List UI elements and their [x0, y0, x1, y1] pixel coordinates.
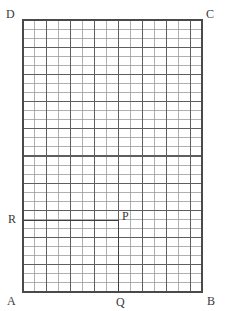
- major-gridlines: [23, 20, 202, 292]
- point-label-r: R: [8, 213, 16, 225]
- figure-root: D C A B R Q P: [0, 0, 226, 311]
- point-label-p: P: [122, 210, 129, 222]
- point-label-q: Q: [116, 296, 125, 308]
- vertex-label-d: D: [6, 8, 15, 20]
- vertex-label-a: A: [7, 295, 16, 307]
- vertex-label-b: B: [207, 295, 215, 307]
- vertex-label-c: C: [206, 8, 214, 20]
- rectangle-grid-figure: [0, 0, 226, 311]
